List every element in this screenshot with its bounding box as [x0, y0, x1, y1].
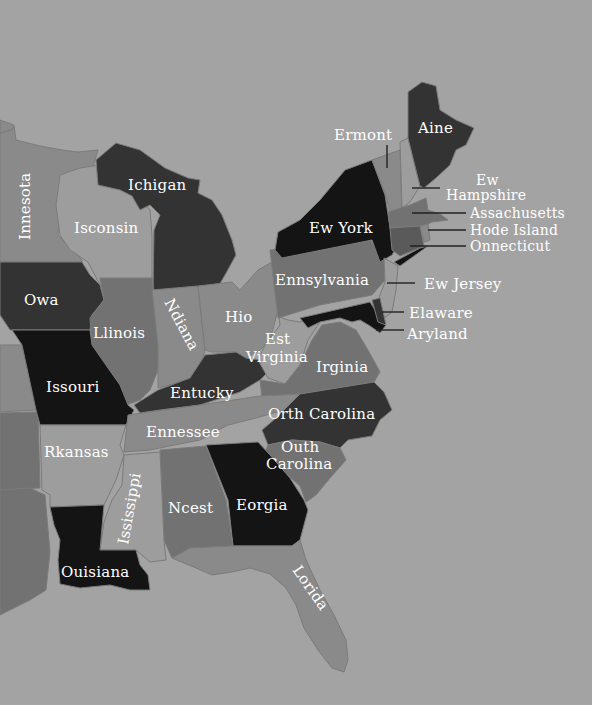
label-delaware: Elaware — [409, 304, 473, 322]
label-louisiana: Ouisiana — [61, 563, 129, 581]
label-georgia: Eorgia — [236, 496, 288, 514]
label-alabama: Ncest — [168, 499, 213, 517]
state-arkansas[interactable] — [40, 425, 126, 507]
state-texas-partial[interactable] — [0, 488, 50, 615]
label-arkansas: Rkansas — [44, 443, 109, 461]
label-kentucky: Entucky — [170, 384, 234, 402]
label-michigan: Ichigan — [128, 176, 187, 194]
label-rhode-island: Hode Island — [470, 222, 558, 238]
state-oklahoma-partial[interactable] — [0, 412, 40, 490]
label-virginia: Irginia — [316, 358, 368, 376]
label-new-hampshire-1: Ew — [476, 172, 499, 188]
label-south-carolina-1: Outh — [281, 438, 320, 456]
label-iowa: Owa — [24, 291, 59, 309]
label-maryland: Aryland — [406, 325, 468, 343]
label-connecticut: Onnecticut — [470, 238, 550, 254]
label-ohio: Hio — [225, 308, 253, 326]
label-missouri: Issouri — [46, 378, 99, 396]
label-new-york: Ew York — [309, 219, 374, 237]
map-canvas: Innesota Isconsin Ichigan Owa Llinois Nd… — [0, 0, 592, 705]
label-illinois: Llinois — [93, 324, 145, 342]
label-pennsylvania: Ennsylvania — [275, 271, 369, 289]
label-new-jersey: Ew Jersey — [424, 275, 502, 293]
label-wisconsin: Isconsin — [74, 219, 139, 237]
label-north-carolina: Orth Carolina — [268, 405, 375, 423]
label-west-virginia-1: Est — [265, 330, 290, 348]
label-south-carolina-2: Carolina — [266, 455, 332, 473]
label-vermont: Ermont — [334, 126, 392, 144]
label-new-hampshire-2: Hampshire — [446, 187, 526, 203]
label-tennessee: Ennessee — [146, 423, 220, 441]
label-maine: Aine — [417, 119, 453, 137]
label-massachusetts: Assachusetts — [469, 205, 565, 221]
label-west-virginia-2: Virginia — [245, 348, 308, 366]
label-minnesota: Innesota — [16, 173, 34, 240]
us-eastern-states-map: Innesota Isconsin Ichigan Owa Llinois Nd… — [0, 0, 592, 705]
